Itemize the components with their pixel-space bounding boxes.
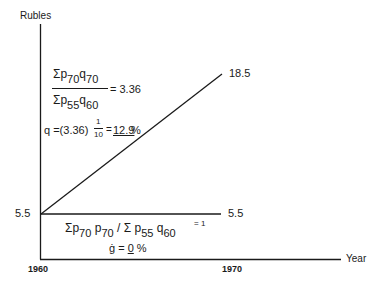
upper-rate-unit: %: [131, 125, 141, 136]
upper-exp-denominator: 10: [94, 131, 103, 139]
growth-end-value-label: 18.5: [229, 68, 250, 79]
flat-end-value-label: 5.5: [228, 208, 243, 219]
upper-fraction-bar: [52, 88, 108, 89]
x-tick-1960: 1960: [28, 265, 48, 274]
y-axis-label: Rubles: [20, 11, 51, 21]
upper-exp-numerator: 1: [96, 118, 100, 126]
x-tick-1970: 1970: [222, 265, 242, 274]
start-value-label: 5.5: [15, 208, 30, 219]
upper-rate-eq: =: [106, 125, 112, 135]
lower-ratio: Σp70 p70 / Σ p55 q60: [65, 222, 176, 239]
lower-ratio-result: = 1: [194, 220, 205, 228]
upper-denominator: Σp55q60: [53, 94, 98, 111]
diagram-canvas: [0, 0, 377, 286]
upper-exp-bar: [94, 128, 103, 129]
lower-rate: ġ = 0 %: [109, 243, 147, 254]
upper-rate-prefix: q =(3.36): [44, 125, 88, 136]
x-axis-label: Year: [346, 254, 366, 264]
upper-ratio-result: = 3.36: [110, 84, 141, 95]
upper-numerator: Σp70q70: [53, 68, 98, 85]
